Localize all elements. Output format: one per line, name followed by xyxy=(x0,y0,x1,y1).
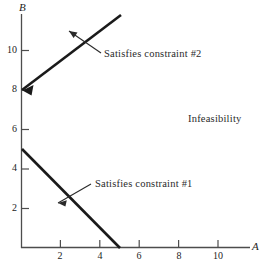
x-tick-label-8: 8 xyxy=(171,250,187,261)
constraint-1-annotation: Satisfies constraint #1 xyxy=(95,178,193,189)
x-tick-label-10: 10 xyxy=(210,250,226,261)
x-axis-ticks xyxy=(60,240,218,248)
y-axis-label: B xyxy=(19,1,26,13)
y-axis-ticks xyxy=(22,51,30,209)
x-tick-label-6: 6 xyxy=(131,250,147,261)
constraint-2-annotation: Satisfies constraint #2 xyxy=(104,48,202,59)
y-tick-label-6: 6 xyxy=(1,123,17,134)
plot-area xyxy=(0,0,265,263)
y-tick-label-8: 8 xyxy=(1,83,17,94)
infeasibility-annotation: Infeasibility xyxy=(188,113,241,124)
y-tick-label-2: 2 xyxy=(1,202,17,213)
constraint-graph-figure: 10 8 6 4 2 2 4 6 8 10 B A Satisfies cons… xyxy=(0,0,265,263)
x-axis-label: A xyxy=(252,240,259,252)
y-tick-label-4: 4 xyxy=(1,162,17,173)
y-tick-label-10: 10 xyxy=(1,44,17,55)
x-tick-label-4: 4 xyxy=(92,250,108,261)
x-tick-label-2: 2 xyxy=(52,250,68,261)
constraint-1-line xyxy=(22,149,120,248)
